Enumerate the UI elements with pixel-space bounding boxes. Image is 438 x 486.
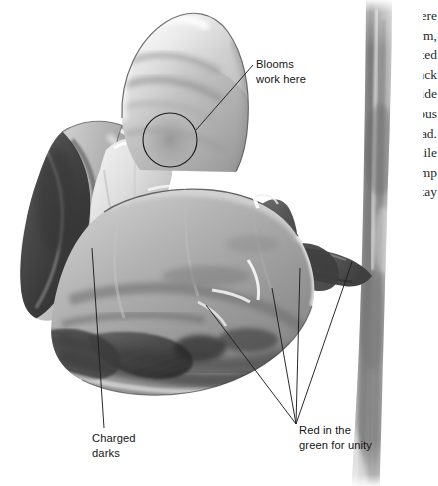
annotation-red-line2: green for unity — [299, 438, 372, 453]
illustration-page: Blooms work here Charged darks Red in th… — [0, 0, 438, 486]
stem-top-fade — [350, 0, 396, 50]
annotation-charged-darks: Charged darks — [92, 431, 136, 460]
blooms-marker-group — [143, 113, 197, 167]
annotation-blooms-line2: work here — [256, 72, 306, 87]
margin-body-text: The light source here is strong and warm… — [423, 6, 437, 200]
margin-body-text-sliver: The light source here is strong and warm… — [423, 0, 438, 200]
annotation-charged-line1: Charged — [92, 431, 136, 446]
annotation-charged-line2: darks — [92, 446, 136, 461]
annotation-red-in-green: Red in the green for unity — [299, 423, 372, 452]
botanical-illustration-artboard — [0, 0, 438, 486]
annotation-red-line1: Red in the — [299, 423, 372, 438]
annotation-blooms-line1: Blooms — [256, 57, 306, 72]
annotation-blooms-work-here: Blooms work here — [256, 57, 306, 86]
